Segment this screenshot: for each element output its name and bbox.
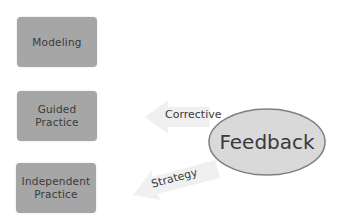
feedback-text: Feedback (219, 130, 314, 154)
feedback-label: Feedback (208, 108, 326, 176)
